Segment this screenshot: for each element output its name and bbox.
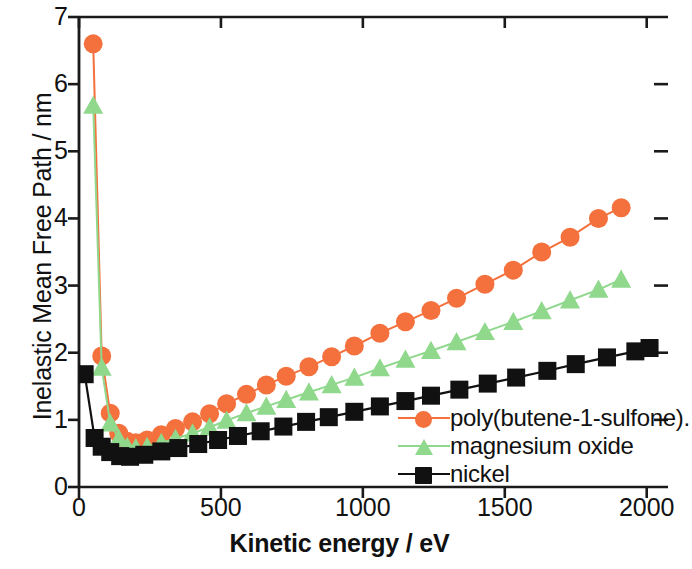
x-tick-label: 0 bbox=[34, 494, 124, 520]
legend-label: poly(butene-1-sulfone). bbox=[450, 405, 690, 431]
x-tick-label: 500 bbox=[176, 494, 266, 520]
legend-label: magnesium oxide bbox=[450, 433, 634, 459]
triangle-marker-icon bbox=[415, 439, 433, 455]
legend-item: nickel bbox=[398, 460, 678, 488]
x-axis-title: Kinetic energy / eV bbox=[79, 529, 600, 558]
legend-sample bbox=[398, 404, 450, 432]
legend-sample bbox=[398, 460, 450, 488]
circle-marker-icon bbox=[415, 411, 432, 428]
legend-item: poly(butene-1-sulfone). bbox=[398, 404, 678, 432]
legend-label: nickel bbox=[450, 461, 510, 487]
square-marker-icon bbox=[415, 467, 432, 484]
legend-item: magnesium oxide bbox=[398, 432, 678, 460]
legend-sample bbox=[398, 432, 450, 460]
x-tick-label: 2000 bbox=[602, 494, 692, 520]
chart-legend: poly(butene-1-sulfone).magnesium oxideni… bbox=[398, 404, 678, 488]
x-tick-label: 1500 bbox=[460, 494, 550, 520]
x-tick-label: 1000 bbox=[318, 494, 408, 520]
